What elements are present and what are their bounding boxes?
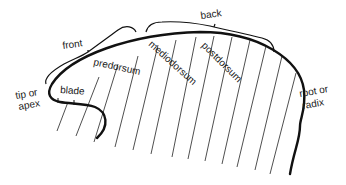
label-postdorsum: postdorsum [200,40,245,85]
label-blade: blade [60,84,86,97]
tongue-diagram: front back tip or apex blade predorsum m… [0,0,346,185]
label-predorsum: predorsum [93,56,142,77]
label-back: back [200,7,223,21]
label-radix: radix [301,96,324,111]
label-front: front [62,37,84,51]
hatching-lines [57,36,296,174]
tongue-outline-figure: front back tip or apex blade predorsum m… [0,0,346,185]
tongue-surface-outline [49,32,304,174]
label-apex: apex [17,97,40,112]
